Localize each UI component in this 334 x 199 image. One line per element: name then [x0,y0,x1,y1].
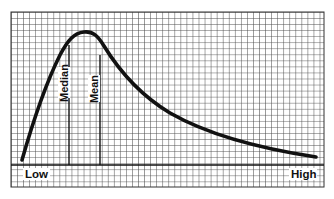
mean-label: Mean [88,75,100,103]
skewed-distribution-chart: Median Mean Low High [0,0,334,199]
median-label: Median [58,64,70,102]
median-label-group: Median [58,64,70,102]
low-label: Low [25,168,48,180]
high-label: High [291,168,317,180]
mean-label-group: Mean [88,75,100,103]
